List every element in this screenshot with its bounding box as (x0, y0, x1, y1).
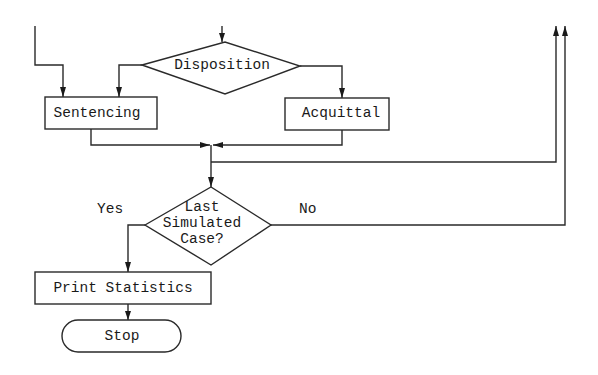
arrowhead-icon (339, 88, 345, 98)
print-statistics-label: Print Statistics (53, 280, 192, 296)
arrowhead-icon (125, 311, 131, 320)
arrowhead-icon (60, 87, 66, 97)
edge-offpage-to-sentencing (35, 26, 63, 97)
arrowhead-icon (219, 33, 225, 42)
arrowhead-icon (208, 177, 214, 187)
disposition-label: Disposition (174, 57, 270, 73)
stop-label: Stop (105, 328, 140, 344)
arrowhead-icon (200, 142, 210, 148)
yes-label: Yes (97, 201, 123, 217)
edge-sentencing-to-junction (91, 129, 210, 145)
arrowhead-icon (553, 26, 559, 36)
edge-junction-loop-back (211, 26, 556, 162)
edge-last-case-yes (128, 225, 145, 272)
sentencing-label: Sentencing (53, 105, 140, 121)
no-label: No (299, 201, 316, 217)
flowchart: Disposition Sentencing Acquittal Last Si… (0, 0, 598, 375)
last-case-label-line2: Simulated (163, 215, 241, 231)
arrowhead-icon (116, 87, 122, 97)
arrowhead-icon (562, 26, 568, 36)
edge-acquittal-to-junction (213, 130, 342, 145)
acquittal-label: Acquittal (302, 105, 380, 121)
edge-disposition-to-acquittal (300, 66, 342, 98)
last-case-label-line3: Case? (180, 231, 224, 247)
arrowhead-icon (125, 262, 131, 272)
arrowhead-icon (213, 142, 223, 148)
edge-disposition-to-sentencing (119, 65, 142, 97)
last-case-label-line1: Last (185, 199, 220, 215)
